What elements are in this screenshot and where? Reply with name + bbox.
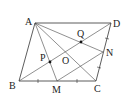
label-a: A [25, 16, 33, 27]
label-o: O [62, 55, 69, 66]
label-d: D [113, 18, 120, 29]
point-p-dot [49, 61, 52, 64]
label-c: C [94, 83, 101, 94]
label-b: B [9, 80, 16, 91]
geometry-diagram: A D B C M N O P Q [0, 0, 127, 100]
point-q-dot [80, 41, 83, 44]
label-n: N [106, 47, 113, 58]
segment-am [35, 23, 57, 81]
label-q: Q [77, 28, 85, 39]
label-m: M [52, 84, 61, 95]
segment-an [35, 23, 103, 52]
label-p: P [40, 52, 46, 63]
